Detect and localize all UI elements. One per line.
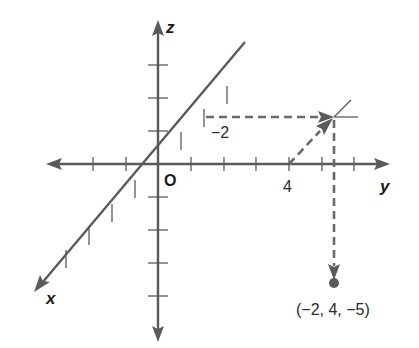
- plotted-point: [329, 278, 339, 288]
- x-axis-label: x: [45, 289, 57, 308]
- y-axis: [46, 157, 390, 171]
- x-axis-ticks: [66, 86, 227, 268]
- origin-label: O: [164, 172, 176, 189]
- y-axis-label: y: [379, 177, 391, 196]
- dashed-arrow-right-icon: [318, 111, 334, 123]
- z-axis-label: z: [165, 18, 175, 37]
- point-label: (−2, 4, −5): [296, 301, 370, 318]
- x-value-label: −2: [211, 124, 229, 141]
- dashed-y-diagonal: [289, 131, 320, 164]
- projection-guides: [334, 100, 358, 117]
- coordinate-diagram: z y x O −2 4 (−2, 4, −5): [0, 0, 419, 348]
- x-axis: [34, 42, 245, 292]
- y-value-label: 4: [283, 178, 292, 195]
- dashed-arrow-down-icon: [328, 264, 340, 280]
